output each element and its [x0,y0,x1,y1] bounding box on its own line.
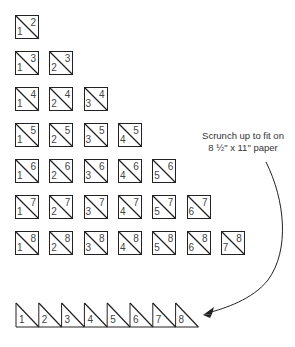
strip-number: 6 [133,315,139,325]
strip-number: 5 [110,315,116,325]
strip-number: 1 [19,315,25,325]
strip-number: 3 [65,315,71,325]
strip-number: 2 [42,315,48,325]
strip-number: 7 [156,315,162,325]
triangle-tile-diagram: 2131324142435152535461626364657172737475… [0,0,295,347]
triangle-strip-icon [0,0,295,347]
strip-number: 8 [179,315,185,325]
strip-number: 4 [87,315,93,325]
